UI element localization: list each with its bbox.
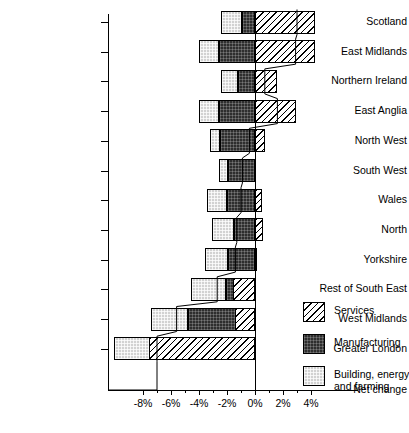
bar-segment-services-6 — [255, 189, 262, 212]
bar-segment-building-1 — [199, 40, 219, 63]
y-axis-tick — [101, 260, 108, 261]
y-axis-label-north-west: North West — [311, 135, 407, 146]
bar-segment-manufacturing-0 — [242, 11, 255, 34]
bar-segment-building-10 — [151, 308, 187, 331]
legend-swatch-manufacturing-icon — [303, 334, 325, 354]
bar-segment-manufacturing-4 — [220, 129, 255, 152]
y-axis-tick — [101, 141, 108, 142]
x-axis-tick-minor — [213, 390, 214, 393]
bar-segment-manufacturing-1 — [219, 40, 255, 63]
y-axis-tick — [101, 230, 108, 231]
bar-segment-building-2 — [221, 70, 238, 93]
y-axis-tick — [101, 200, 108, 201]
y-axis-tick — [101, 319, 108, 320]
y-axis-tick — [101, 111, 108, 112]
y-axis-label-east-midlands: East Midlands — [311, 46, 407, 57]
legend-label-building-line2: and farming — [334, 380, 389, 392]
x-axis-tick-minor — [157, 390, 158, 393]
y-axis-label-rest-of-south-east: Rest of South East — [311, 283, 407, 294]
y-axis-label-yorkshire: Yorkshire — [311, 254, 407, 265]
y-axis-label-northern-ireland: Northern Ireland — [311, 75, 407, 86]
x-axis-tick-major — [199, 390, 200, 395]
x-axis-tick-minor — [185, 390, 186, 393]
legend-swatch-building-icon — [303, 366, 325, 386]
y-axis-line — [108, 14, 109, 390]
bar-segment-services-2 — [255, 70, 277, 93]
y-axis-tick — [101, 349, 108, 350]
bar-segment-building-6 — [207, 189, 227, 212]
bar-segment-building-0 — [221, 11, 242, 34]
y-axis-label-east-anglia: East Anglia — [311, 105, 407, 116]
bar-segment-manufacturing-5 — [228, 159, 255, 182]
x-axis-tick-minor — [269, 390, 270, 393]
x-axis-tick-minor — [241, 390, 242, 393]
y-axis-label-south-west: South West — [311, 165, 407, 176]
y-axis-tick — [101, 171, 108, 172]
y-axis-label-scotland: Scotland — [311, 16, 407, 27]
bar-segment-services-4 — [255, 129, 265, 152]
y-axis-label-wales: Wales — [311, 194, 407, 205]
legend-label-building: Building, energyand farming — [334, 368, 409, 392]
x-axis-tick-major — [143, 390, 144, 395]
bar-segment-services-11 — [149, 337, 255, 360]
bar-segment-services-0 — [255, 11, 315, 34]
bar-segment-services-9 — [233, 278, 255, 301]
legend-label-manufacturing: Manufacturing — [334, 336, 401, 348]
bar-segment-manufacturing-8 — [228, 248, 255, 271]
x-axis-tick-major — [171, 390, 172, 395]
bar-segment-building-8 — [205, 248, 229, 271]
y-axis-tick — [101, 22, 108, 23]
bar-segment-services-3 — [255, 100, 296, 123]
y-axis-tick — [101, 289, 108, 290]
bar-segment-building-7 — [212, 218, 234, 241]
bar-segment-services-10 — [235, 308, 255, 331]
bar-segment-building-4 — [210, 129, 220, 152]
bar-segment-building-9 — [191, 278, 226, 301]
bar-segment-manufacturing-3 — [219, 100, 255, 123]
legend-label-building-line1: Building, energy — [334, 368, 409, 380]
bar-segment-services-1 — [255, 40, 315, 63]
legend-swatch-services-icon — [303, 302, 325, 322]
bar-segment-manufacturing-7 — [234, 218, 255, 241]
bar-segment-building-5 — [219, 159, 229, 182]
y-axis-label-north: North — [311, 224, 407, 235]
bar-segment-manufacturing-6 — [227, 189, 255, 212]
legend-label-services: Services — [334, 304, 374, 316]
bar-segment-services-8 — [255, 248, 257, 271]
y-axis-tick — [101, 81, 108, 82]
bar-segment-building-3 — [199, 100, 219, 123]
x-axis-tick-major — [283, 390, 284, 395]
bar-segment-services-7 — [255, 218, 263, 241]
x-axis-tick-major — [255, 390, 256, 395]
x-axis-tick-label: 4% — [291, 397, 331, 409]
x-axis-tick-major — [227, 390, 228, 395]
net-change-polyline — [108, 10, 297, 391]
x-axis-tick-minor — [297, 390, 298, 393]
y-axis-tick — [101, 52, 108, 53]
bar-segment-manufacturing-2 — [238, 70, 255, 93]
